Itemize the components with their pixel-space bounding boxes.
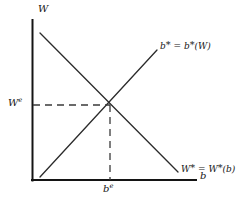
- curve-w-lhs: W: [181, 164, 190, 174]
- tick-we-superscript: e: [18, 96, 22, 104]
- curve-label-upward: b* = b*(W): [160, 40, 211, 51]
- curve-w-equals: =: [195, 164, 208, 174]
- curve-downward-w-star: [40, 33, 178, 172]
- figure-canvas: W b We be b* = b*(W) W* = W*(b): [0, 0, 239, 203]
- curve-w-rhs-arg: (b): [223, 164, 236, 174]
- curve-label-downward: W* = W*(b): [181, 163, 235, 174]
- x-axis-tick-label-be: be: [103, 184, 113, 194]
- curve-w-rhs: W: [208, 164, 217, 174]
- curve-b-rhs-arg: (W): [195, 41, 211, 51]
- tick-be-superscript: e: [109, 182, 113, 190]
- tick-we-base: W: [8, 97, 18, 108]
- curve-upward-b-star: [40, 50, 157, 177]
- curve-b-equals: =: [171, 41, 184, 51]
- y-axis-tick-label-we: We: [8, 98, 22, 108]
- y-axis-label: W: [38, 4, 48, 14]
